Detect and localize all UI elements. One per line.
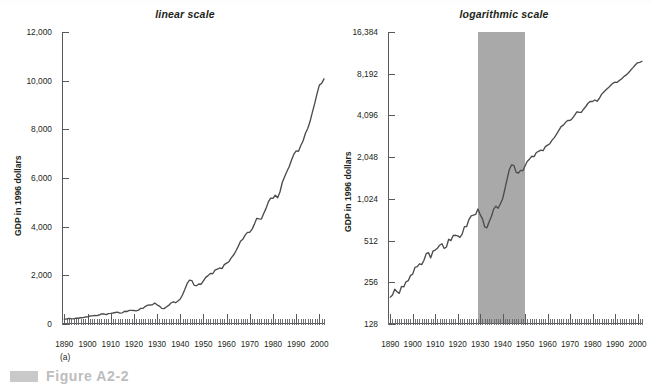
- x-tick-minor: [642, 319, 643, 325]
- x-tick-label: 1950: [194, 340, 212, 349]
- x-tick-label: 2000: [310, 340, 328, 349]
- panel-b-y-axis-title: GDP in 1996 dollars: [343, 151, 353, 232]
- plot-area-linear: 02,0004,0006,0008,00010,00012,000 189019…: [62, 32, 324, 324]
- x-tick-label: 1970: [241, 340, 259, 349]
- y-tick-label: 512: [364, 236, 378, 246]
- y-tick-label: 128: [364, 319, 378, 329]
- y-tick-label: 2,048: [357, 152, 378, 162]
- x-tick-label: 1940: [171, 340, 189, 349]
- gdp-curve-logarithmic: [388, 32, 642, 324]
- figure-a2-2: linear scale GDP in 1996 dollars 02,0004…: [0, 0, 652, 392]
- y-tick-label: 6,000: [31, 173, 52, 183]
- panel-linear-scale: linear scale GDP in 1996 dollars 02,0004…: [0, 0, 336, 368]
- figure-caption: Figure A2-2: [10, 368, 129, 384]
- x-tick-label: 1910: [102, 340, 120, 349]
- y-tick-label: 0: [47, 319, 52, 329]
- panel-a-title: linear scale: [0, 8, 336, 20]
- x-tick-label: 1930: [471, 340, 489, 349]
- caption-bar-marker: [10, 371, 38, 382]
- x-tick-label: 1990: [606, 340, 624, 349]
- x-tick-label: 1980: [264, 340, 282, 349]
- x-tick-label: 1930: [148, 340, 166, 349]
- x-axis-labels-b: 1890190019101920193019401950196019701980…: [388, 335, 642, 349]
- y-tick-label: 8,000: [31, 124, 52, 134]
- y-tick-label: 256: [364, 277, 378, 287]
- x-tick-label: 1900: [404, 340, 422, 349]
- x-tick-label: 1980: [583, 340, 601, 349]
- x-tick-label: 1940: [494, 340, 512, 349]
- x-tick-label: 1920: [449, 340, 467, 349]
- y-tick-label: 16,384: [352, 27, 378, 37]
- panel-a-y-axis-title: GDP in 1996 dollars: [13, 155, 23, 236]
- x-tick-label: 1890: [55, 340, 73, 349]
- x-tick-label: 1990: [287, 340, 305, 349]
- gdp-curve-linear: [62, 32, 324, 324]
- x-tick-label: 1960: [538, 340, 556, 349]
- y-tick-label: 1,024: [357, 194, 378, 204]
- panel-b-title: logarithmic scale: [330, 8, 652, 20]
- x-tick-label: 1890: [381, 340, 399, 349]
- x-tick-label: 1920: [125, 340, 143, 349]
- figure-caption-label: Figure A2-2: [46, 368, 129, 384]
- x-tick-label: 1900: [78, 340, 96, 349]
- y-tick-label: 4,000: [31, 222, 52, 232]
- x-axis-labels-a: 1890190019101920193019401950196019701980…: [62, 335, 324, 349]
- x-tick-label: 1910: [426, 340, 444, 349]
- y-tick-label: 8,192: [357, 69, 378, 79]
- y-tick-label: 4,096: [357, 110, 378, 120]
- plot-area-logarithmic: 1282565121,0242,0484,0968,19216,384 1890…: [388, 32, 642, 324]
- y-tick-label: 10,000: [26, 76, 52, 86]
- y-tick-label: 12,000: [26, 27, 52, 37]
- x-tick-label: 2000: [628, 340, 646, 349]
- x-tick-label: 1950: [516, 340, 534, 349]
- panel-a-sublabel: (a): [60, 352, 70, 362]
- panel-logarithmic-scale: logarithmic scale GDP in 1996 dollars 12…: [330, 0, 652, 368]
- x-tick-minor: [324, 319, 325, 325]
- x-tick-label: 1970: [561, 340, 579, 349]
- x-tick-label: 1960: [218, 340, 236, 349]
- y-tick-label: 2,000: [31, 270, 52, 280]
